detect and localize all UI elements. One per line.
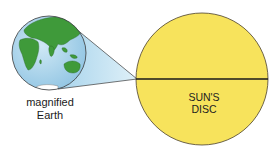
sun-label-line1: SUN'S — [182, 91, 226, 103]
earth-label-line1: magnified — [14, 96, 86, 109]
sun-label-line2: DISC — [182, 103, 226, 115]
earth-label-line2: Earth — [14, 109, 86, 122]
earth-label: magnified Earth — [14, 96, 86, 122]
sun-label: SUN'S DISC — [182, 91, 226, 115]
sun-earth-diagram — [0, 0, 277, 154]
